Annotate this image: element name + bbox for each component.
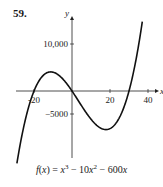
x-axis-arrow-icon [155,89,159,93]
x-axis-label: x [159,86,163,96]
y-tick-label-10000: 10,000 [43,39,68,49]
x-tick-label-20: 20 [106,95,116,105]
y-tick-label-neg5000: −5000 [45,109,69,119]
function-curve [17,22,142,164]
x-tick-label-40: 40 [144,95,154,105]
cubic-function-plot: x y -20 20 40 10,000 −5000 [0,0,163,187]
y-axis-arrow-icon [70,16,74,20]
y-axis-label: y [64,8,69,18]
function-caption: f(x) = x3 − 10x2 − 600x [0,163,163,175]
